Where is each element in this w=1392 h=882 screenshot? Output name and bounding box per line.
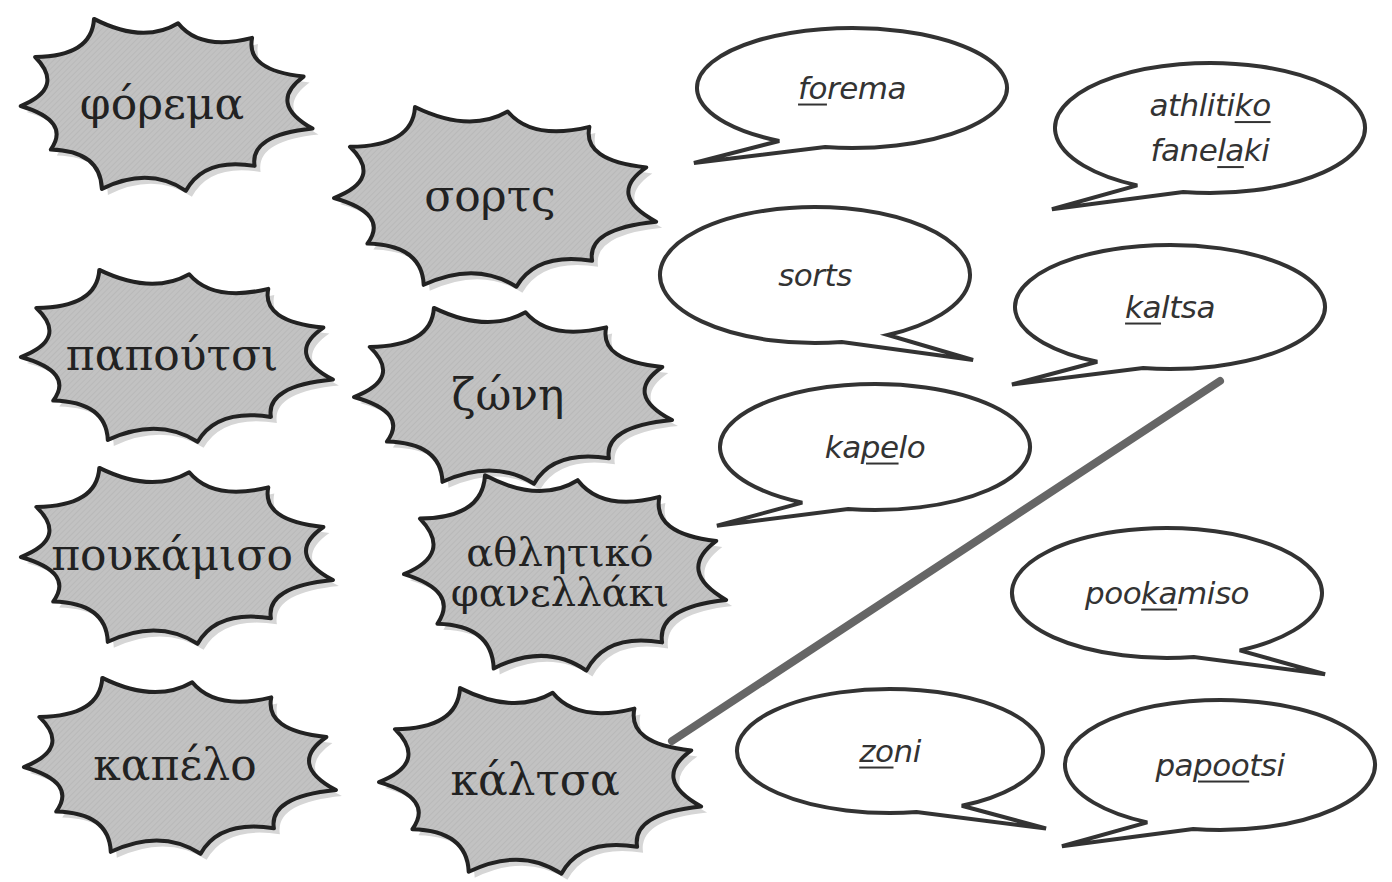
syllable-text: fane xyxy=(1151,132,1218,168)
transliteration-kaltsa[interactable]: kaltsa xyxy=(1125,285,1215,330)
stressed-syllable: ko xyxy=(1235,87,1271,123)
stressed-syllable: ka xyxy=(1141,575,1177,611)
syllable-text: ka xyxy=(825,429,861,465)
syllable-text: tsi xyxy=(1249,747,1284,783)
syllable-text: sorts xyxy=(778,257,852,293)
syllable-text: pa xyxy=(1155,747,1193,783)
greek-word-zoni[interactable]: ζώνη xyxy=(452,373,565,417)
transliteration-zoni[interactable]: zoni xyxy=(859,729,921,774)
stressed-syllable: la xyxy=(1217,132,1244,168)
transliteration-papoutsi[interactable]: papootsi xyxy=(1155,743,1284,788)
stressed-syllable: pe xyxy=(861,429,899,465)
transliteration-pookamiso[interactable]: pookamiso xyxy=(1085,571,1249,616)
syllable-text: ltsa xyxy=(1161,289,1215,325)
greek-word-kapelo[interactable]: καπέλο xyxy=(93,743,256,787)
transliteration-sorts[interactable]: sorts xyxy=(778,253,852,298)
syllable-text: lo xyxy=(899,429,926,465)
greek-word-athlitiko[interactable]: αθλητικό φανελλάκι xyxy=(451,532,669,612)
greek-word-forema[interactable]: φόρεμα xyxy=(80,82,244,126)
greek-word-kaltsa[interactable]: κάλτσα xyxy=(450,758,619,802)
stressed-syllable: fo xyxy=(798,70,827,106)
greek-word-papoutsi[interactable]: παπούτσι xyxy=(66,333,278,377)
transliteration-kapelo[interactable]: kapelo xyxy=(825,425,925,470)
greek-word-sorts[interactable]: σορτς xyxy=(424,174,555,218)
word-labels: φόρεμασορτςπαπούτσιζώνηπουκάμισοαθλητικό… xyxy=(0,0,1392,882)
stressed-syllable: zo xyxy=(859,733,893,769)
syllable-text: rema xyxy=(827,70,906,106)
stressed-syllable: ka xyxy=(1125,289,1161,325)
transliteration-athlitiko[interactable]: athlitikofanelaki xyxy=(1149,83,1270,173)
syllable-text: athliti xyxy=(1149,87,1234,123)
greek-word-pookamiso[interactable]: πουκάμισο xyxy=(51,533,293,577)
syllable-text: miso xyxy=(1177,575,1249,611)
stressed-syllable: poo xyxy=(1193,747,1249,783)
syllable-text: ni xyxy=(893,733,920,769)
syllable-text: poo xyxy=(1085,575,1141,611)
transliteration-forema[interactable]: forema xyxy=(798,66,906,111)
syllable-text: ki xyxy=(1244,132,1270,168)
